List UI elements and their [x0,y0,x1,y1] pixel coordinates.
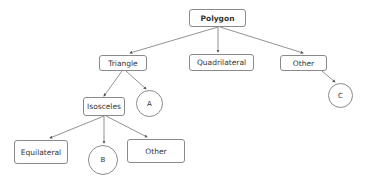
node-polygon: Polygon [189,9,246,27]
edge-triangle-a [126,71,146,89]
node-other-top: Other [280,55,327,71]
node-label: C [338,92,343,100]
node-b: B [88,145,118,175]
node-label: B [101,156,106,164]
node-a: A [136,90,163,117]
edge-polygon-other [220,27,303,53]
node-label: A [147,100,152,108]
node-equilateral: Equilateral [14,140,68,164]
node-label: Isosceles [87,102,121,111]
edge-triangle-isosceles [104,71,122,96]
node-label: Triangle [108,59,137,68]
node-other-bottom: Other [127,139,185,163]
node-triangle: Triangle [99,55,147,71]
edge-polygon-triangle [130,27,218,53]
node-isosceles: Isosceles [83,97,125,116]
edge-isosceles-equilateral [50,116,104,138]
edge-isosceles-other [106,116,147,137]
node-c: C [328,83,353,108]
node-label: Polygon [201,14,235,23]
node-quadrilateral: Quadrilateral [189,54,254,71]
node-label: Other [145,147,166,156]
edge-other-c [322,71,335,82]
node-label: Quadrilateral [197,58,246,67]
node-label: Equilateral [21,148,61,157]
node-label: Other [293,59,314,68]
